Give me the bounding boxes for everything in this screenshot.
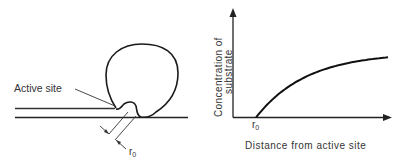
x-axis-arrowhead xyxy=(383,114,392,121)
active-site-label: Active site xyxy=(14,82,62,94)
concentration-curve xyxy=(256,57,388,117)
figure: Active site r0 Concentration of substrat… xyxy=(0,0,402,165)
r0-extension-line-2 xyxy=(115,116,136,140)
enzyme-outline xyxy=(106,44,178,117)
concentration-chart: Concentration of substrate r0 Distance f… xyxy=(213,8,392,151)
r0-extension-line-1 xyxy=(109,112,128,134)
r0-label: r0 xyxy=(129,146,136,158)
enzyme-diagram: Active site r0 xyxy=(14,44,188,158)
x-tick-r0: r0 xyxy=(252,119,259,131)
y-axis-label-line2: substrate xyxy=(223,49,234,94)
x-axis-label: Distance from active site xyxy=(245,140,366,151)
y-axis-arrowhead xyxy=(230,8,237,17)
